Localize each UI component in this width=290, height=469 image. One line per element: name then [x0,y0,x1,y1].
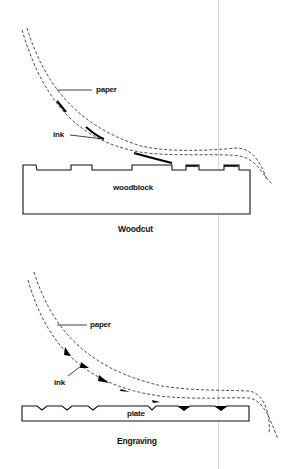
woodblock-label: woodblock [113,183,153,192]
diagram-drawing [0,0,290,469]
woodcut-ink-label: ink [53,130,64,139]
engraving-ink-label: ink [54,378,65,387]
woodcut-paper-label: paper [96,85,117,94]
woodcut-caption: Woodcut [118,224,153,234]
engraving-caption: Engraving [117,436,157,446]
engraving-paper-label: paper [90,320,111,329]
plate-label: plate [127,409,145,418]
printing-diagram: paper ink woodblock Woodcut paper ink pl… [0,0,290,469]
engraving-figure [22,272,278,439]
